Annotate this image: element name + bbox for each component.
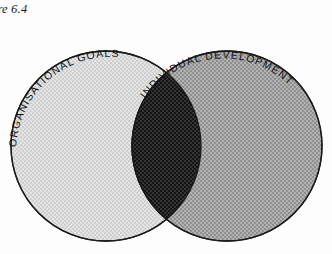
figure-page: ure 6.4 [0,0,332,254]
venn-diagram: ORGANISATIONAL GOALS INDIVIDUAL DEVELOPM… [0,0,332,254]
